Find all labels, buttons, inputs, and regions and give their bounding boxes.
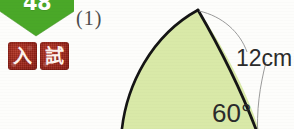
sub-part-label: (1) [76, 7, 102, 30]
angle-label-60deg: 60° [212, 98, 251, 129]
exam-stamp-nyu-char: 入 [8, 42, 37, 70]
exam-stamp-shi: 試 [40, 42, 69, 70]
exam-stamp-nyu: 入 [8, 42, 37, 70]
length-label-12cm: 12cm [236, 45, 292, 72]
scanned-textbook-page: 48 入 試 (1) [0, 0, 294, 129]
problem-number-text: 48 [0, 0, 74, 14]
dimension-arc-lower [257, 62, 266, 129]
exam-stamp-shi-char: 試 [40, 42, 69, 70]
problem-number-badge: 48 [0, 0, 74, 38]
